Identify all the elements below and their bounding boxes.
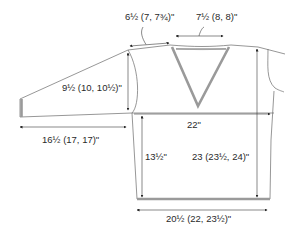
dimension-lines	[20, 27, 270, 210]
v-neck-ribbing	[172, 47, 229, 106]
armhole-depth-label: 9½ (10, 10½)"	[62, 82, 122, 93]
armhole-length-label: 13½"	[145, 151, 167, 162]
hem-width-label: 20½ (22, 23½)"	[166, 213, 231, 224]
chest-width-label: 22"	[187, 119, 201, 130]
shoulder-width-label: 6½ (7, 7¾)"	[125, 11, 174, 22]
neck-width-label: 7½ (8, 8)"	[196, 11, 237, 22]
v-neck	[170, 45, 231, 106]
body-outline	[128, 45, 285, 199]
sweater-schematic: 6½ (7, 7¾)" 7½ (8, 8)" 9½ (10, 10½)" 16½…	[0, 0, 299, 234]
total-length-label: 23 (23½, 24)"	[192, 151, 249, 162]
sleeve-length-label: 16½ (17, 17)"	[42, 134, 99, 145]
